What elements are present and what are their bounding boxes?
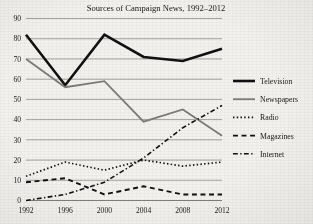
- legend-label-magazines: Magazines: [260, 132, 294, 141]
- series-line-newspapers: [26, 59, 222, 136]
- x-tick-label: 2012: [214, 206, 229, 215]
- y-tick-label: 10: [13, 176, 21, 185]
- chart-legend: TelevisionNewspapersRadioMagazinesIntern…: [233, 77, 298, 159]
- y-tick-label: 80: [13, 34, 21, 43]
- legend-label-radio: Radio: [260, 113, 279, 122]
- y-tick-label: 90: [13, 14, 21, 23]
- series-line-magazines: [26, 178, 222, 194]
- y-tick-label: 70: [13, 55, 21, 64]
- x-tick-label: 2004: [136, 206, 151, 215]
- line-chart: 0102030405060708090 19921996200020042008…: [0, 0, 313, 224]
- x-tick-label: 2008: [175, 206, 190, 215]
- chart-container: 0102030405060708090 19921996200020042008…: [0, 0, 313, 224]
- x-axis-tick-labels: 199219962000200420082012: [18, 206, 229, 215]
- y-tick-label: 60: [13, 75, 21, 84]
- chart-title: Sources of Campaign News, 1992–2012: [87, 3, 226, 13]
- x-tick-label: 2000: [97, 206, 112, 215]
- legend-label-newspapers: Newspapers: [260, 95, 298, 104]
- x-tick-label: 1992: [18, 206, 33, 215]
- series-line-television: [26, 35, 222, 86]
- series-line-radio: [26, 160, 222, 176]
- y-tick-label: 40: [13, 115, 21, 124]
- y-axis-tick-labels: 0102030405060708090: [13, 14, 21, 205]
- x-tick-label: 1996: [58, 206, 73, 215]
- legend-label-internet: Internet: [260, 150, 285, 159]
- y-tick-label: 20: [13, 156, 21, 165]
- y-tick-label: 0: [17, 196, 21, 205]
- series-lines: [26, 35, 222, 201]
- y-tick-label: 30: [13, 136, 21, 145]
- legend-label-television: Television: [260, 77, 292, 86]
- y-tick-label: 50: [13, 95, 21, 104]
